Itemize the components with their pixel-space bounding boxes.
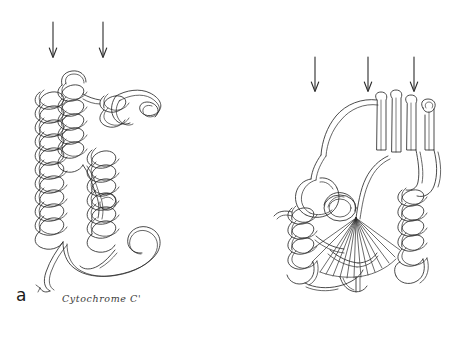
down-arrow-icon: [364, 57, 371, 92]
panel-a: a Cytochrome C': [0, 0, 228, 339]
figure-canvas: a Cytochrome C': [0, 0, 456, 339]
helix-front-right: [87, 148, 119, 252]
lower-left-loops: [287, 261, 363, 291]
loop-upper-middle: [83, 94, 100, 104]
right-upper-connector: [406, 150, 441, 197]
down-arrow-icon: [99, 22, 106, 58]
panel-letter-a: a: [16, 287, 26, 304]
ribbon-curl-top-right: [112, 90, 161, 125]
left-helix-tail: [274, 211, 292, 219]
panel-a-drawing: [0, 0, 228, 339]
down-arrow-icon: [49, 22, 56, 58]
panel-b-drawing: [228, 0, 456, 339]
right-helix-front: [398, 188, 427, 266]
beta-hairpins-top: [376, 90, 436, 152]
left-helix-front: [288, 206, 317, 269]
central-helix-axial: [324, 193, 356, 221]
beta-sheet-fan: [308, 218, 400, 278]
c-terminal-tail: [36, 227, 160, 292]
left-sweeping-loop: [295, 178, 339, 218]
down-arrow-icon: [311, 57, 318, 92]
down-arrow-icon: [410, 57, 417, 92]
mid-connector-strand: [356, 156, 390, 219]
loop-top-left: [61, 71, 86, 85]
ribbon-loop-upper: [311, 100, 378, 180]
panel-a-caption: Cytochrome C': [62, 293, 141, 304]
loop-mid-cross: [83, 165, 103, 219]
panel-b: b Phosphoglycerate Kinase domain 2: [228, 0, 456, 339]
